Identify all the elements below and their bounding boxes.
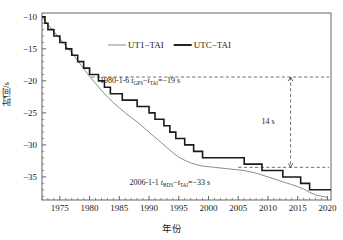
x-tick-label: 2005 [229, 203, 248, 213]
x-tick-label: 2010 [259, 203, 278, 213]
y-axis-title: 时间/s [1, 82, 15, 106]
x-tick-label: 1985 [110, 203, 129, 213]
legend-label-1: UT1−TAI [128, 40, 164, 50]
x-axis-tick-labels: 1975198019851990199520002005201020152020 [51, 203, 337, 213]
y-tick-label: −20 [23, 76, 38, 86]
y-tick-label: −15 [23, 44, 38, 54]
x-tick-label: 1995 [170, 203, 189, 213]
plot-svg: −10−15−20−25−30−35 197519801985199019952… [0, 0, 343, 240]
x-tick-label: 1975 [51, 203, 70, 213]
legend-label-2: UTC−TAI [194, 40, 231, 50]
x-tick-label: 1980 [81, 203, 100, 213]
offset-gap-annotation: 14 s [261, 117, 274, 126]
y-tick-label: −35 [23, 172, 38, 182]
chart-figure: 时间/s 年份 −10−15−20−25−30−35 1975198019851… [0, 0, 343, 240]
y-tick-label: −10 [23, 12, 38, 22]
x-tick-label: 2000 [200, 203, 219, 213]
y-tick-label: −25 [23, 108, 38, 118]
x-tick-label: 1990 [140, 203, 159, 213]
x-axis-title: 年份 [0, 224, 343, 235]
y-tick-label: −30 [23, 140, 38, 150]
x-tick-label: 2020 [318, 203, 337, 213]
plot-frame [42, 13, 331, 200]
x-tick-label: 2015 [289, 203, 308, 213]
y-axis-tick-labels: −10−15−20−25−30−35 [23, 12, 38, 182]
